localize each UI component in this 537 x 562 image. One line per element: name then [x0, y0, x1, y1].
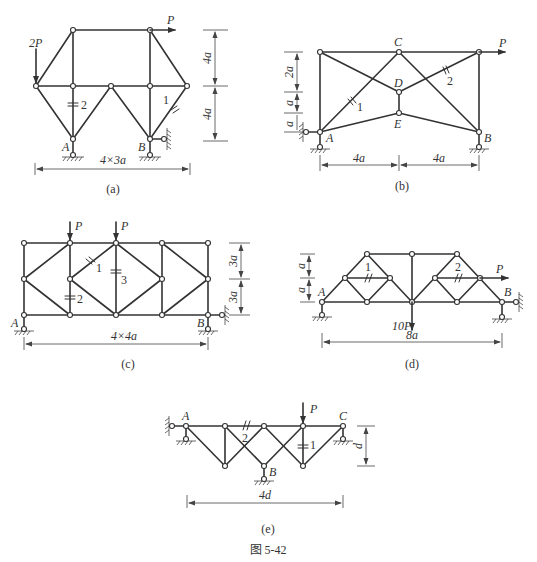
- support-label-a: A: [325, 131, 334, 145]
- member-label-1: 1: [163, 93, 169, 107]
- truss-panel-e: P 2 1 A B C d 4d (e): [165, 402, 375, 536]
- dim-right-span: 4a: [433, 151, 445, 165]
- dim-h-lower: a: [294, 287, 308, 293]
- dim-span: 4×4a: [111, 329, 137, 343]
- dim-h-lower: 3a: [226, 291, 240, 304]
- member-label-1: 1: [96, 261, 102, 275]
- member-label-2: 2: [77, 292, 83, 306]
- dim-height: d: [351, 442, 365, 449]
- member-label-3: 3: [121, 273, 127, 287]
- caption-b: (b): [395, 179, 409, 193]
- node-label-c: C: [394, 35, 403, 49]
- support-label-b: B: [197, 316, 205, 330]
- support-label-b: B: [484, 131, 492, 145]
- caption-a: (a): [106, 182, 119, 196]
- support-label-a: A: [10, 316, 19, 330]
- member-label-1: 1: [310, 438, 316, 452]
- truss-panel-d: 10P P 1 2 A B a a 8a (d): [294, 252, 523, 372]
- support-label-a: A: [317, 285, 326, 299]
- support-label-b: B: [504, 285, 512, 299]
- dim-span: 4×3a: [100, 153, 126, 167]
- load-label-p: P: [309, 402, 318, 416]
- dim-h2: a: [282, 100, 296, 106]
- dim-h1: 2a: [282, 66, 296, 78]
- node-label-e: E: [393, 117, 402, 131]
- node-label-d: D: [393, 76, 403, 90]
- dim-h3: a: [282, 121, 296, 127]
- member-label-1: 1: [365, 260, 371, 274]
- support-label-b: B: [269, 465, 277, 479]
- caption-d: (d): [405, 357, 419, 371]
- load-label-2p: 2P: [29, 36, 43, 50]
- caption-c: (c): [121, 357, 134, 371]
- load-label-p1: P: [74, 219, 83, 233]
- dim-height-upper: 4a: [200, 52, 214, 64]
- support-label-a: A: [61, 140, 70, 154]
- dim-span: 8a: [406, 328, 418, 342]
- member-label-2: 2: [242, 431, 248, 445]
- load-label-p: P: [498, 36, 507, 50]
- dim-h-upper: a: [294, 263, 308, 269]
- support-label-a: A: [181, 409, 190, 423]
- member-label-1: 1: [357, 100, 363, 114]
- truss-panel-a: 2 1 2P P A B 4a 4a 4×3a (a): [29, 13, 228, 196]
- truss-panel-c: P P 1 3 2 A B 3a 3a 4×4a (c): [10, 219, 250, 371]
- support-label-b: B: [138, 140, 146, 154]
- figure-caption: 图 5-42: [250, 543, 287, 557]
- load-label-p: P: [166, 13, 175, 27]
- support-label-c: C: [339, 409, 348, 423]
- load-label-p: P: [495, 262, 504, 276]
- dim-span: 4d: [259, 488, 272, 502]
- dim-left-span: 4a: [353, 151, 365, 165]
- truss-panel-b: P 1 2 C D E A B 2a a a 4a 4a (b): [282, 35, 507, 193]
- member-label-2: 2: [81, 98, 87, 112]
- dim-height-lower: 4a: [200, 108, 214, 120]
- dim-h-upper: 3a: [226, 255, 240, 268]
- load-label-p2: P: [120, 219, 129, 233]
- member-label-2: 2: [455, 260, 461, 274]
- caption-e: (e): [261, 522, 274, 536]
- member-label-2: 2: [447, 74, 453, 88]
